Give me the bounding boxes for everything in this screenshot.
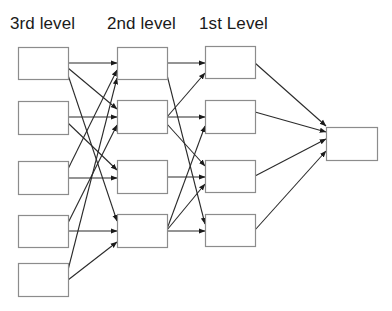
edge-arrow xyxy=(68,68,117,109)
edge-arrow xyxy=(255,139,326,176)
edge-arrow xyxy=(255,63,326,126)
level2-node-box xyxy=(118,48,168,80)
diagram-canvas xyxy=(0,0,392,311)
level2-node-box xyxy=(118,215,168,248)
edge-layer xyxy=(68,63,326,280)
level1-node-box xyxy=(206,215,256,247)
node-layer xyxy=(19,47,378,297)
level3-node-box xyxy=(19,216,69,248)
edge-arrow xyxy=(167,75,205,224)
level3-node-box xyxy=(19,264,69,297)
edge-arrow xyxy=(68,75,117,221)
edge-arrow xyxy=(167,124,205,166)
edge-arrow xyxy=(255,151,326,230)
level2-node-box xyxy=(118,161,168,194)
level2-node-box xyxy=(118,101,168,134)
edge-arrow xyxy=(68,242,117,280)
edge-arrow xyxy=(167,73,205,117)
output-node-box xyxy=(327,128,378,161)
edge-arrow xyxy=(68,78,117,270)
edge-arrow xyxy=(255,112,326,132)
edge-arrow xyxy=(68,123,117,170)
edge-arrow xyxy=(68,70,117,169)
level1-node-box xyxy=(206,101,256,134)
level1-node-box xyxy=(206,47,256,79)
level1-node-box xyxy=(206,161,256,193)
level3-node-box xyxy=(19,48,69,80)
level3-node-box xyxy=(19,102,69,135)
edge-arrow xyxy=(167,184,205,230)
level3-node-box xyxy=(19,162,69,195)
